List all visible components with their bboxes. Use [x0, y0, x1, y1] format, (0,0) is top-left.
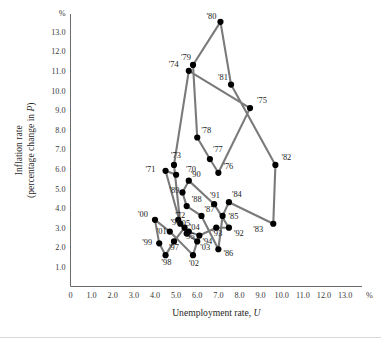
- y-tick-label: 6.0: [55, 165, 65, 174]
- x-tick-label: 7.0: [213, 291, 223, 300]
- data-point-label: '93: [212, 229, 222, 238]
- data-point-label: '71: [146, 165, 156, 174]
- data-point: [270, 221, 276, 227]
- x-tick-label: 13.0: [338, 291, 352, 300]
- data-point: [173, 172, 179, 178]
- y-tick-label: 4.0: [55, 204, 65, 213]
- y-tick-label: 13.0: [51, 28, 65, 37]
- data-point-label: '73: [171, 151, 181, 160]
- data-point: [190, 62, 196, 68]
- chart-canvas: 01.02.03.04.05.06.07.08.09.010.011.012.0…: [0, 0, 381, 338]
- data-point-label: '80: [207, 12, 217, 21]
- data-point-label: '99: [142, 238, 152, 247]
- data-point: [162, 168, 168, 174]
- phillips-curve-figure: 01.02.03.04.05.06.07.08.09.010.011.012.0…: [0, 0, 381, 338]
- x-tick-label: 1.0: [86, 291, 96, 300]
- y-tick-label: 12.0: [51, 47, 65, 56]
- y-axis-tick-labels: 1.02.03.04.05.06.07.08.09.010.011.012.01…: [51, 28, 65, 272]
- x-tick-label: 8.0: [234, 291, 244, 300]
- data-point: [152, 217, 158, 223]
- data-point-label: '87: [205, 205, 215, 214]
- data-point-label: '02: [189, 259, 199, 268]
- data-point-label: '75: [257, 96, 267, 105]
- axis-unit-markers: %%: [59, 9, 373, 300]
- data-point-label: '86: [223, 249, 233, 258]
- data-point: [226, 199, 232, 205]
- data-point-label: '98: [162, 258, 172, 267]
- y-tick-label: 5.0: [55, 185, 65, 194]
- data-point: [156, 240, 162, 246]
- y-axis-percent-symbol: %: [59, 9, 66, 18]
- x-tick-label: 0: [68, 291, 72, 300]
- y-tick-label: 7.0: [55, 145, 65, 154]
- data-point: [179, 189, 185, 195]
- data-point: [272, 162, 278, 168]
- y-axis-title-line1: Inflation rate: [13, 125, 24, 175]
- data-point-label: '92: [234, 229, 244, 238]
- data-point-label: '01: [157, 227, 167, 236]
- data-point-label: '85: [229, 212, 239, 221]
- data-point-label: '83: [253, 225, 263, 234]
- y-tick-label: 3.0: [55, 224, 65, 233]
- data-point: [186, 68, 192, 74]
- data-point-label: '90: [191, 170, 201, 179]
- data-point-label: '96: [171, 218, 181, 227]
- data-point-label: '97: [169, 243, 179, 252]
- data-point: [194, 134, 200, 140]
- x-tick-label: 5.0: [171, 291, 181, 300]
- x-tick-label: 6.0: [192, 291, 202, 300]
- y-axis-title-line2: (percentage change in P): [25, 102, 37, 198]
- data-point: [215, 246, 221, 252]
- y-tick-label: 11.0: [51, 67, 65, 76]
- y-tick-label: 10.0: [51, 87, 65, 96]
- data-point: [184, 203, 190, 209]
- data-point: [228, 81, 234, 87]
- x-tick-label: 9.0: [255, 291, 265, 300]
- data-point-labels: '70'71'72'73'74'75'76'77'78'79'80'81'82'…: [138, 12, 291, 268]
- data-point: [215, 170, 221, 176]
- x-tick-label: 3.0: [129, 291, 139, 300]
- data-point: [207, 156, 213, 162]
- data-point-label: '81: [218, 73, 228, 82]
- x-axis-title: Unemployment rate, U: [172, 307, 261, 318]
- data-point: [219, 213, 225, 219]
- x-tick-label: 12.0: [317, 291, 331, 300]
- data-point-label: '03: [200, 243, 210, 252]
- x-tick-label: 10.0: [275, 291, 289, 300]
- x-tick-label: 4.0: [150, 291, 160, 300]
- x-tick-label: 11.0: [296, 291, 310, 300]
- data-point-label: '88: [192, 195, 202, 204]
- data-point: [217, 19, 223, 25]
- data-point: [171, 162, 177, 168]
- y-tick-label: 2.0: [55, 243, 65, 252]
- data-point-label: '74: [169, 60, 180, 69]
- data-point-label: '82: [281, 153, 291, 162]
- y-tick-label: 1.0: [55, 263, 65, 272]
- data-point-label: '84: [232, 190, 243, 199]
- x-axis-tick-labels: 01.02.03.04.05.06.07.08.09.010.011.012.0…: [68, 291, 352, 300]
- y-tick-label: 8.0: [55, 126, 65, 135]
- y-tick-label: 9.0: [55, 106, 65, 115]
- data-point-label: '00: [138, 210, 148, 219]
- x-axis-percent-symbol: %: [366, 291, 373, 300]
- x-tick-label: 2.0: [108, 291, 118, 300]
- data-point: [226, 225, 232, 231]
- data-point-label: '78: [201, 126, 211, 135]
- data-point-label: '89: [170, 186, 180, 195]
- data-point-label: '95: [185, 232, 195, 241]
- data-point-label: '04: [190, 223, 201, 232]
- data-point-label: '91: [210, 191, 220, 200]
- data-point: [167, 229, 173, 235]
- data-point-label: '79: [181, 53, 191, 62]
- data-point: [190, 252, 196, 258]
- data-point-label: '77: [213, 145, 223, 154]
- data-point-label: '76: [223, 162, 233, 171]
- data-point-label: '05: [180, 219, 190, 228]
- data-point: [247, 105, 253, 111]
